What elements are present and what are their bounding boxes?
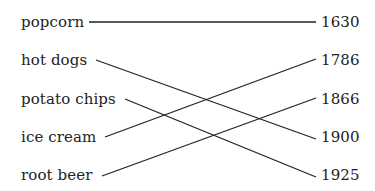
line-ice-cream-1786 bbox=[105, 59, 316, 137]
connection-lines bbox=[0, 0, 375, 191]
line-potato-chips-1925 bbox=[125, 99, 316, 177]
